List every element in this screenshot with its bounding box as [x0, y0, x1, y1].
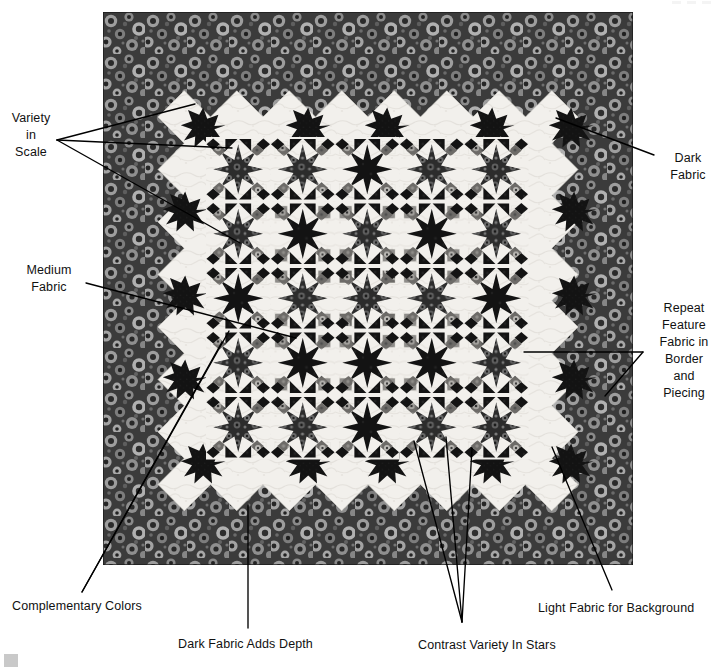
star-block [206, 266, 271, 331]
annotation-label-contrast-variety-in-stars: Contrast Variety In Stars [418, 637, 568, 654]
star-block [335, 395, 400, 460]
annotation-label-medium-fabric: Medium Fabric [16, 262, 82, 296]
star-block [206, 202, 271, 267]
star-block [464, 202, 529, 267]
star-block [271, 266, 336, 331]
star-block [400, 137, 465, 202]
star-block [206, 331, 271, 396]
annotation-label-dark-fabric-adds-depth: Dark Fabric Adds Depth [178, 636, 324, 653]
top-edge-mark-1 [672, 1, 681, 4]
star-block [400, 202, 465, 267]
quilt-image [103, 12, 633, 565]
star-block [464, 331, 529, 396]
corner-swatch [4, 654, 18, 667]
top-edge-mark-2 [687, 1, 696, 4]
star-block [464, 137, 529, 202]
star-block [400, 331, 465, 396]
star-block [464, 266, 529, 331]
star-block [271, 202, 336, 267]
star-block [335, 331, 400, 396]
star-block [400, 266, 465, 331]
star-block [335, 137, 400, 202]
star-block [271, 137, 336, 202]
annotation-label-variety-in-scale: Variety in Scale [8, 110, 54, 161]
star-block [206, 395, 271, 460]
pieced-block-grid [206, 137, 529, 460]
star-block [271, 331, 336, 396]
quilt-annotation-figure: Variety in ScaleDark FabricMedium Fabric… [0, 0, 721, 668]
annotation-label-light-fabric-for-background: Light Fabric for Background [538, 600, 716, 617]
star-block [206, 137, 271, 202]
star-block [335, 266, 400, 331]
annotation-label-dark-fabric: Dark Fabric [660, 150, 716, 184]
star-block [335, 202, 400, 267]
star-block [400, 395, 465, 460]
annotation-label-repeat-feature-fabric: Repeat Feature Fabric in Border and Piec… [650, 300, 718, 402]
star-block [464, 395, 529, 460]
star-block [271, 395, 336, 460]
annotation-label-complementary-colors: Complementary Colors [12, 598, 162, 615]
top-edge-mark-3 [702, 1, 711, 4]
